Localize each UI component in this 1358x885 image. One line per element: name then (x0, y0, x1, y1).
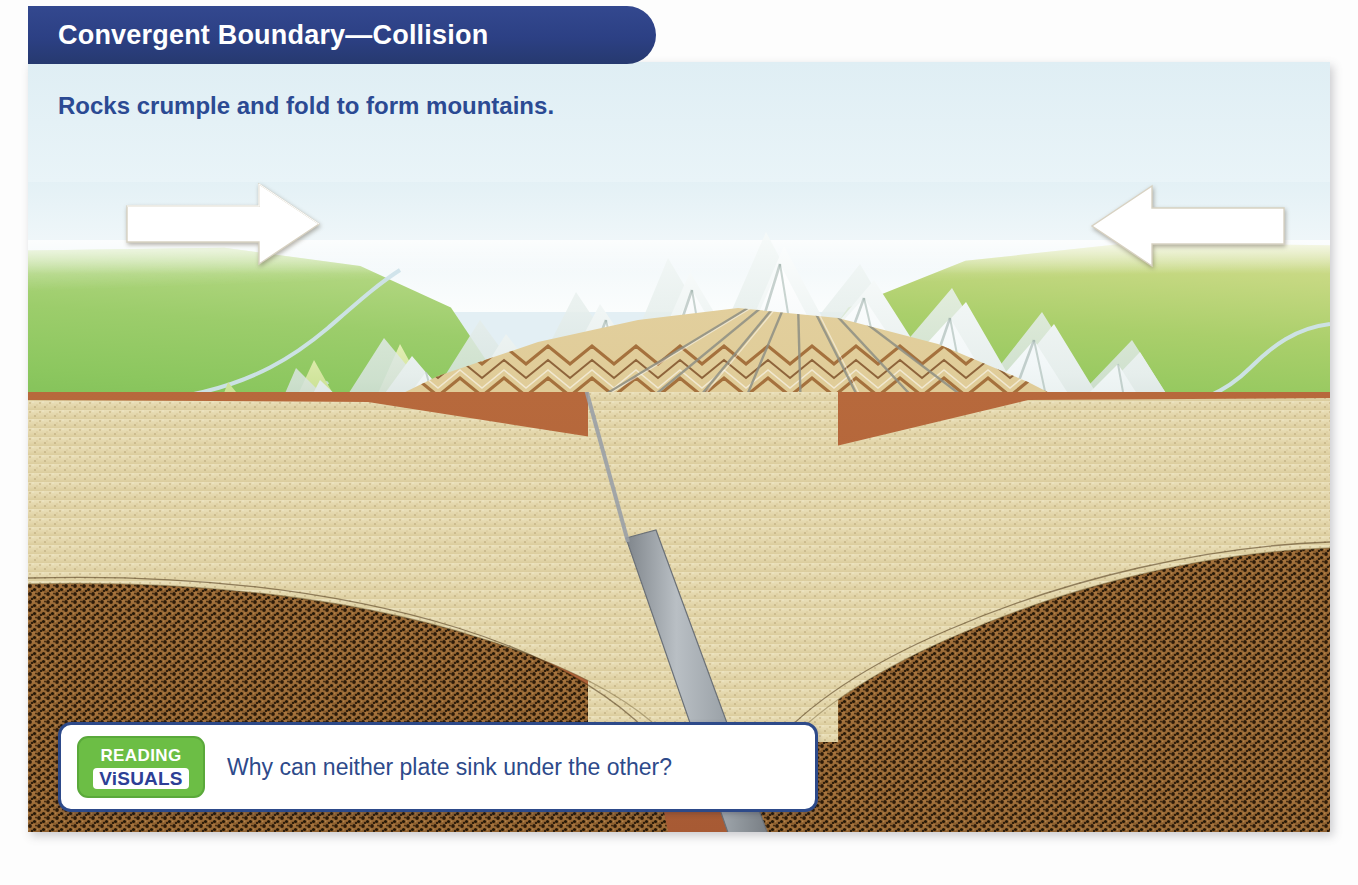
title-banner: Convergent Boundary—Collision (28, 6, 656, 64)
badge-line-reading: READING (100, 746, 181, 766)
figure-root: READING ViSUALS Why can neither plate si… (0, 0, 1358, 885)
arrow-right-plate (1088, 180, 1288, 272)
figure-title: Convergent Boundary—Collision (28, 20, 488, 51)
caption-band (28, 62, 1330, 182)
illustration-panel: READING ViSUALS Why can neither plate si… (28, 62, 1330, 832)
arrow-left-plate (123, 178, 323, 270)
figure-subtitle: Rocks crumple and fold to form mountains… (58, 92, 554, 120)
badge-line-visuals-wrap: ViSUALS (93, 768, 188, 789)
reading-visuals-badge: READING ViSUALS (77, 736, 205, 798)
badge-line-visuals: ViSUALS (99, 768, 182, 789)
reading-visuals-callout[interactable]: READING ViSUALS Why can neither plate si… (58, 722, 818, 812)
callout-question: Why can neither plate sink under the oth… (227, 754, 672, 781)
